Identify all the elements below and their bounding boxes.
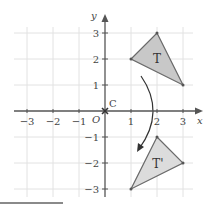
y-tick-label: 2 <box>93 54 99 65</box>
center-label: C <box>109 98 117 109</box>
y-tick-label: −3 <box>84 184 99 195</box>
x-tick-label: −3 <box>20 116 35 127</box>
x-axis-arrow-icon <box>195 108 203 115</box>
coordinate-diagram: −3 −2 −1 1 2 3 3 2 1 −1 −2 −3 x y O C T … <box>0 0 216 216</box>
triangle-t-label: T <box>153 52 161 66</box>
divider-line <box>0 202 63 204</box>
y-axis-label: y <box>90 10 97 21</box>
rotation-arrow-icon <box>137 76 153 152</box>
x-tick-label: 1 <box>128 116 134 127</box>
x-axis-label: x <box>197 115 203 126</box>
x-tick-label: −1 <box>72 116 87 127</box>
x-tick-label: 3 <box>180 116 186 127</box>
y-tick-label: 1 <box>93 80 99 91</box>
origin-label: O <box>92 114 100 125</box>
x-tick-label: 2 <box>154 116 160 127</box>
x-tick-label: −2 <box>46 116 61 127</box>
y-tick-label: −2 <box>84 158 99 169</box>
y-tick-label: −1 <box>84 132 99 143</box>
y-tick-label: 3 <box>93 28 99 39</box>
triangle-t-prime-label: T' <box>152 157 163 171</box>
y-axis-arrow-icon <box>102 14 109 22</box>
